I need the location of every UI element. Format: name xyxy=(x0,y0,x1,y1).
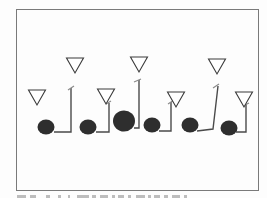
caption-glyph-fragment xyxy=(100,195,108,198)
caption-glyph-fragment xyxy=(68,195,70,198)
caption-glyph-fragment xyxy=(172,195,180,198)
caption-glyph-fragment xyxy=(148,195,151,198)
offensive-player-circle xyxy=(221,121,238,136)
center-player-circle xyxy=(113,111,135,132)
caption-glyph-fragment xyxy=(30,195,36,198)
caption-glyph-fragment xyxy=(128,195,131,198)
caption-glyph-fragment xyxy=(17,195,26,198)
offensive-player-circle xyxy=(38,120,55,135)
caption-glyph-fragment xyxy=(136,195,145,198)
figure-caption xyxy=(17,195,187,198)
offensive-player-circle xyxy=(144,118,161,133)
caption-glyph-fragment xyxy=(118,195,124,198)
caption-glyph-fragment xyxy=(164,195,168,198)
caption-glyph-fragment xyxy=(154,195,160,198)
play-diagram xyxy=(0,0,267,198)
caption-glyph-fragment xyxy=(46,195,50,198)
caption-glyph-fragment xyxy=(92,195,96,198)
diagram-frame xyxy=(17,10,259,191)
caption-glyph-fragment xyxy=(77,195,89,198)
offensive-player-circle xyxy=(80,120,97,135)
caption-glyph-fragment xyxy=(58,195,61,198)
offensive-player-circle xyxy=(182,118,199,133)
caption-glyph-fragment xyxy=(184,195,187,198)
play-diagram-canvas xyxy=(0,0,267,198)
caption-glyph-fragment xyxy=(112,195,115,198)
